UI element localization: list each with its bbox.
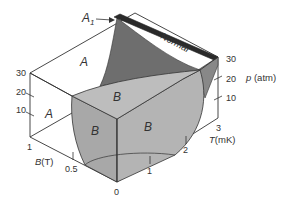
pressure-axis-label: p (atm) <box>245 72 276 83</box>
field-axis-label: B(T) <box>35 156 53 167</box>
phase-diagram: A1 A A B B B Normal 30 20 10 30 20 10 p … <box>0 0 289 207</box>
t-tick-1: 1 <box>147 166 152 176</box>
p-tick-left-20: 20 <box>16 87 26 97</box>
b-tick-0-5: 0.5 <box>65 164 78 174</box>
p-tick-30: 30 <box>226 54 236 64</box>
p-tick-20: 20 <box>226 74 236 84</box>
a1-label: A1 <box>81 11 94 27</box>
b-tick-1: 1 <box>27 142 32 152</box>
p-tick-left-10: 10 <box>16 105 26 115</box>
p-tick-left-30: 30 <box>16 68 26 78</box>
t-tick-3: 3 <box>216 123 221 133</box>
t-tick-2: 2 <box>183 145 188 155</box>
region-b-left-label: B <box>91 124 99 138</box>
region-b-top-label: B <box>113 90 121 104</box>
p-tick-10: 10 <box>226 93 236 103</box>
region-normal-label: Normal <box>159 30 192 55</box>
region-a-upper-label: A <box>79 55 88 69</box>
t-tick-0: 0 <box>114 187 119 197</box>
region-a-lower-label: A <box>44 107 53 121</box>
temperature-axis-label: T(mK) <box>209 134 235 145</box>
a1-arrowhead <box>109 17 115 23</box>
region-b-right-label: B <box>144 120 152 134</box>
